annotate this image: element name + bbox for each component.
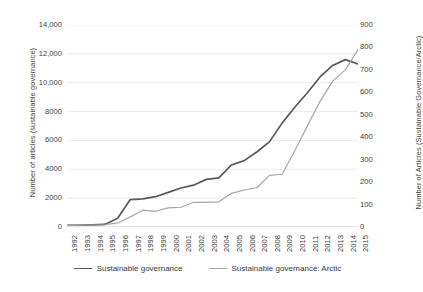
plot-area bbox=[67, 25, 358, 227]
y-axis-left-tick-label: 14,000 bbox=[20, 21, 62, 29]
x-axis-tick-label: 1999 bbox=[159, 235, 168, 252]
x-axis-tick-label: 1998 bbox=[146, 235, 155, 252]
y-axis-right-tick-label: 100 bbox=[360, 201, 400, 209]
y-axis-left-tick-label: 0 bbox=[20, 223, 62, 231]
x-axis-tick-label: 2005 bbox=[235, 235, 244, 252]
x-axis-tick-label: 2002 bbox=[197, 235, 206, 252]
chart-legend: Sustainable governanceSustainable govern… bbox=[0, 264, 415, 273]
legend-swatch-icon bbox=[209, 268, 227, 269]
legend-label: Sustainable governance bbox=[97, 264, 183, 273]
x-axis-tick-label: 1994 bbox=[96, 235, 105, 252]
series-lines bbox=[67, 50, 358, 226]
y-axis-left-tick-label: 10,000 bbox=[20, 79, 62, 87]
x-axis-tick-label: 2013 bbox=[336, 235, 345, 252]
x-axis-tick-label: 1995 bbox=[108, 235, 117, 252]
legend-item[interactable]: Sustainable governance bbox=[74, 264, 183, 273]
legend-label: Sustainable governance: Arctic bbox=[232, 264, 342, 273]
y-axis-right-title: Number of Articles (Sustainable Governan… bbox=[414, 23, 423, 223]
x-axis-tick-label: 2003 bbox=[210, 235, 219, 252]
x-axis-tick-label: 2008 bbox=[273, 235, 282, 252]
x-axis-tick-label: 2000 bbox=[172, 235, 181, 252]
y-axis-left-tick-label: 2000 bbox=[20, 194, 62, 202]
y-axis-left-tick-label: 8000 bbox=[20, 108, 62, 116]
plot-svg bbox=[67, 25, 358, 227]
x-axis-tick-label: 2001 bbox=[184, 235, 193, 252]
x-axis-tick-label: 2011 bbox=[311, 236, 320, 252]
x-axis-tick-label: 2014 bbox=[349, 235, 358, 252]
series-line bbox=[67, 50, 358, 226]
y-axis-left-tick-label: 6000 bbox=[20, 136, 62, 144]
y-axis-right-tick-label: 600 bbox=[360, 88, 400, 96]
x-axis-tick-label: 2004 bbox=[222, 235, 231, 252]
x-axis-tick-label: 2012 bbox=[323, 235, 332, 252]
y-axis-right-tick-label: 500 bbox=[360, 111, 400, 119]
x-axis-tick-label: 2010 bbox=[298, 235, 307, 252]
y-axis-right-tick-label: 400 bbox=[360, 133, 400, 141]
y-axis-left-tick-label: 12,000 bbox=[20, 50, 62, 58]
y-axis-right-tick-label: 800 bbox=[360, 43, 400, 51]
legend-swatch-icon bbox=[74, 268, 92, 269]
x-axis-tick-label: 2009 bbox=[285, 235, 294, 252]
series-line bbox=[67, 60, 358, 226]
x-axis-tick-label: 2007 bbox=[260, 235, 269, 252]
legend-item[interactable]: Sustainable governance: Arctic bbox=[209, 264, 342, 273]
y-axis-left-tick-label: 4000 bbox=[20, 165, 62, 173]
y-axis-right-tick-label: 700 bbox=[360, 66, 400, 74]
x-axis-tick-label: 1992 bbox=[70, 235, 79, 252]
gridlines bbox=[67, 25, 358, 227]
x-axis-tick-label: 2006 bbox=[248, 235, 257, 252]
x-axis-tick-label: 1997 bbox=[134, 235, 143, 252]
y-axis-right-tick-label: 0 bbox=[360, 223, 400, 231]
x-axis-tick-label: 2015 bbox=[361, 235, 370, 252]
y-axis-right-tick-label: 200 bbox=[360, 178, 400, 186]
x-axis-tick-label: 1996 bbox=[121, 235, 130, 252]
y-axis-right-tick-label: 900 bbox=[360, 21, 400, 29]
x-axis-tick-label: 1993 bbox=[83, 235, 92, 252]
y-axis-right-tick-label: 300 bbox=[360, 156, 400, 164]
